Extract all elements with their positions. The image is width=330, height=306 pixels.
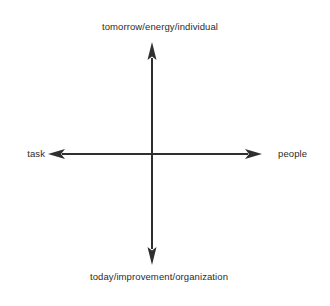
axis-label-right: people — [278, 148, 307, 160]
arrowhead-up-icon — [148, 42, 157, 60]
axis-label-top: tomorrow/energy/individual — [0, 21, 320, 33]
axis-label-left: task — [0, 148, 45, 160]
axis-label-bottom: today/improvement/organization — [0, 271, 318, 283]
arrowhead-down-icon — [148, 247, 157, 265]
axes-diagram: tomorrow/energy/individual today/improve… — [0, 0, 330, 306]
